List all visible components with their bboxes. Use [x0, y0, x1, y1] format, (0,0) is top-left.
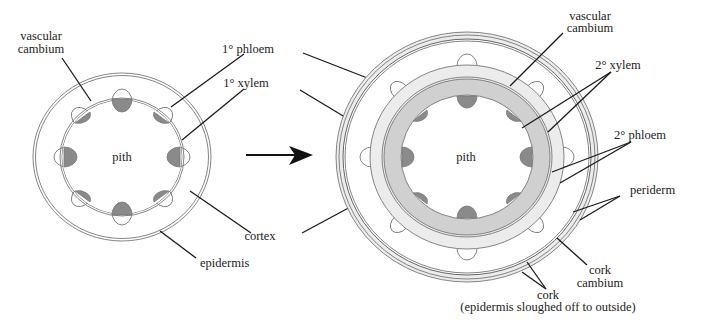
secondary-phloem-label: 2° phloem: [614, 128, 666, 142]
cork-leader-2: [522, 272, 546, 289]
epidermis-label: epidermis: [200, 256, 249, 270]
cork-label-2: (epidermis sloughed off to outside): [460, 300, 635, 314]
primary-stem: pith: [33, 73, 211, 241]
growth-arrow-icon: [246, 146, 313, 165]
primary-xylem-label: 1° xylem: [223, 76, 269, 90]
cork-cambium-label-1: cork: [589, 263, 612, 277]
secondary-xylem-label: 2° xylem: [595, 58, 641, 72]
cork-cambium-label-2: cambium: [577, 276, 624, 290]
secondary-pith-label: pith: [456, 150, 476, 164]
primary-vascular-cambium-label-1: vascular: [20, 29, 62, 43]
cork-leader-1: [527, 262, 546, 289]
periderm-label: periderm: [630, 183, 675, 197]
secondary-stem: pith: [336, 32, 598, 282]
stem-growth-diagram: pith vascular cambium epidermis 1° phloe…: [0, 0, 701, 326]
primary-phloem-label: 1° phloem: [222, 42, 274, 56]
primary-pith-label: pith: [112, 150, 132, 164]
cortex-leader-left: [190, 191, 251, 233]
cork-cambium-leader: [557, 238, 587, 265]
epidermis-leader: [160, 231, 196, 258]
primary-vascular-cambium-label-2: cambium: [18, 42, 65, 56]
secondary-vascular-cambium-label-2: cambium: [567, 21, 614, 35]
